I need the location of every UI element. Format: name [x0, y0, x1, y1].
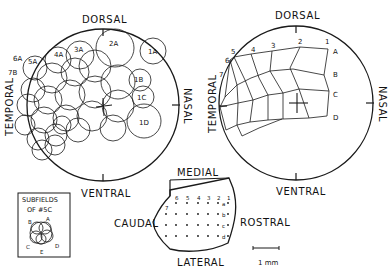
field-label-3a: 3A — [74, 46, 83, 54]
temporal-label: TEMPORAL — [207, 74, 218, 134]
col-label-7: 7 — [219, 71, 223, 79]
row-label-d: D — [333, 114, 338, 122]
field-label-1a: 1A — [148, 48, 157, 56]
col-label-6: 6 — [225, 57, 230, 65]
grid-row-labels: A B C D — [333, 48, 338, 122]
penetration-row-labels: a b c d — [222, 201, 226, 240]
field-label-1b: 1B — [134, 76, 143, 84]
pen-col-7: 7 — [165, 205, 169, 211]
legend-title-2: OF #5C — [27, 206, 53, 214]
pen-col-1: 1 — [227, 195, 231, 201]
dorsal-label: DORSAL — [275, 10, 320, 21]
field-label-2a: 2A — [109, 40, 118, 48]
pen-col-6: 6 — [175, 195, 179, 201]
subfields-legend: SUBFIELDS OF #5C A B C D E — [18, 193, 70, 257]
col-label-5: 5 — [231, 48, 235, 56]
subfield-label-c: C — [26, 244, 30, 250]
col-label-1: 1 — [325, 38, 329, 46]
pen-row-a: a — [222, 201, 225, 207]
subfield-circles — [30, 222, 53, 244]
col-label-2: 2 — [298, 38, 302, 46]
penetration-dots — [165, 202, 229, 237]
scale-bar: 1 mm — [253, 246, 279, 267]
row-label-b: B — [333, 71, 338, 79]
nasal-label: NASAL — [182, 88, 193, 124]
nasal-label: NASAL — [377, 86, 388, 122]
legend-title-1: SUBFIELDS — [22, 196, 58, 204]
lateral-label: LATERAL — [177, 257, 224, 268]
ventral-label: VENTRAL — [276, 186, 326, 197]
field-label-5a: 5A — [28, 58, 37, 66]
right-visual-field-panel: 1 2 3 4 5 6 7 A B C D DORSAL VENTRAL TEM… — [207, 10, 388, 197]
subfield-label-d: D — [55, 243, 59, 249]
field-label-6a: 6A — [13, 55, 22, 63]
col-label-4: 4 — [251, 46, 256, 54]
pen-col-2: 2 — [217, 195, 221, 201]
pen-col-3: 3 — [207, 195, 211, 201]
dorsal-label: DORSAL — [82, 14, 127, 25]
pen-row-b: b — [222, 212, 226, 218]
field-label-7b: 7B — [8, 69, 17, 77]
subfield-label-e: E — [40, 249, 44, 255]
pen-row-d: d — [222, 234, 226, 240]
subfield-label-b: B — [28, 219, 32, 225]
temporal-label: TEMPORAL — [4, 77, 15, 137]
medial-label: MEDIAL — [177, 167, 219, 178]
row-label-c: C — [333, 91, 338, 99]
col-label-3: 3 — [271, 42, 275, 50]
pen-col-4: 4 — [197, 195, 201, 201]
field-label-1c: 1C — [137, 94, 146, 102]
caudal-label: CAUDAL — [114, 218, 159, 229]
retinotopic-figure: 1A 2A 3A 4A 5A 6A 7B 1B 1C 1D DORSAL VEN… — [0, 0, 391, 271]
pen-row-c: c — [222, 223, 225, 229]
rostral-label: ROSTRAL — [240, 217, 290, 228]
scale-bar-label: 1 mm — [258, 259, 278, 267]
electrode-penetration-map: 6 5 4 3 2 1 7 a b c d MEDIAL LATERAL CAU… — [114, 167, 290, 268]
field-label-1d: 1D — [139, 119, 149, 127]
subfield-label-a: A — [46, 216, 50, 222]
pen-col-5: 5 — [186, 195, 190, 201]
field-label-4a: 4A — [54, 51, 63, 59]
left-visual-field-panel: 1A 2A 3A 4A 5A 6A 7B 1B 1C 1D DORSAL VEN… — [4, 14, 193, 199]
receptive-field-grid — [220, 47, 329, 136]
row-label-a: A — [333, 48, 338, 56]
ventral-label: VENTRAL — [81, 188, 131, 199]
